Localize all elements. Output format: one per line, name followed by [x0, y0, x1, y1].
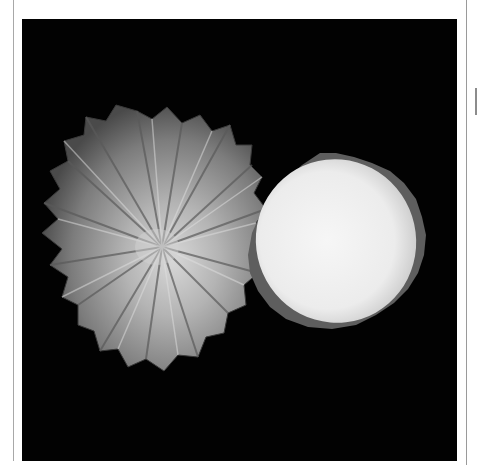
- shells-illustration: [22, 19, 457, 461]
- shell-photo: [22, 19, 457, 461]
- nacre-shell: [235, 138, 438, 343]
- left-border-line: [13, 0, 14, 461]
- ribbed-shell: [42, 105, 266, 371]
- right-border-line: [466, 0, 467, 465]
